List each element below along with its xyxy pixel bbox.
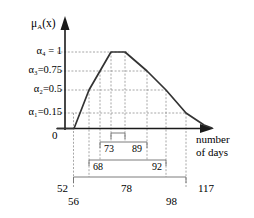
y-axis-arrowhead	[61, 16, 70, 30]
bracket-alpha4	[111, 133, 125, 139]
x-axis-title: number of days	[196, 133, 230, 158]
vertical-gridlines	[74, 52, 187, 187]
y-tick-alpha1: α₁=0.15	[0, 107, 62, 118]
origin-label: 0	[52, 130, 58, 141]
y-axis-title-arg: (x)	[42, 17, 55, 29]
y-tick-alpha4: α₄ = 1	[0, 46, 62, 57]
x-axis	[57, 124, 214, 133]
y-tick-alpha3: α₃=0.75	[0, 65, 62, 76]
x-axis-title-line1: number	[196, 133, 230, 146]
y-axis-title: μA(x)	[31, 18, 56, 31]
bracket-label-89: 89	[132, 144, 142, 154]
bracket-label-92: 92	[152, 162, 162, 172]
x-annotation-78: 78	[121, 183, 132, 194]
x-annotation-56: 56	[68, 196, 79, 207]
x-axis-title-line2: of days	[196, 146, 230, 159]
horizontal-gridlines	[57, 52, 186, 113]
bracket-label-73: 73	[104, 144, 114, 154]
fuzzy-membership-figure: μA(x) α₄ = 1 α₃=0.75 α₂=0.5 α₁=0.15 0 nu…	[0, 0, 254, 218]
x-annotation-98: 98	[166, 196, 177, 207]
bracket-label-68: 68	[93, 162, 103, 172]
x-annotation-117: 117	[198, 183, 214, 194]
x-annotation-52: 52	[57, 183, 68, 194]
y-tick-alpha2: α₂=0.5	[0, 84, 62, 95]
